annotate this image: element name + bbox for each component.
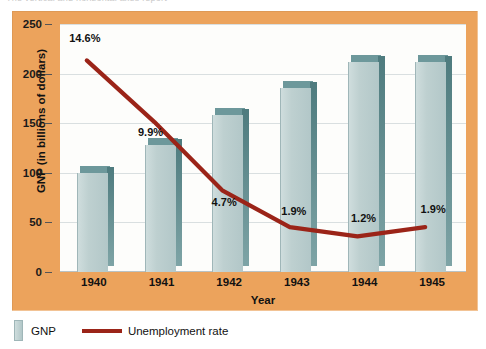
chart-legend: GNP Unemployment rate: [14, 320, 228, 341]
unemployment-value-label: 1.9%: [281, 205, 306, 217]
plot-area: 14.6%9.9%4.7%1.9%1.2%1.9%: [60, 24, 466, 272]
unemployment-value-label: 14.6%: [69, 32, 100, 44]
cut-off-caption-text: The vertical and horizontal axes report: [6, 0, 167, 3]
y-axis-tick-labels: 050100150200250: [12, 24, 52, 272]
y-axis-tick-mark: [45, 222, 52, 223]
x-axis-tick-label: 1940: [81, 276, 107, 288]
x-axis-tick-label: 1941: [149, 276, 175, 288]
unemployment-value-label: 1.9%: [421, 203, 446, 215]
chart-panel: GNP (in billions of dollars) 05010015020…: [12, 11, 478, 311]
legend-unemployment-line: [82, 329, 122, 333]
x-axis-tick-label: 1943: [284, 276, 310, 288]
y-axis-tick-label: 200: [23, 68, 42, 80]
x-axis-tick-labels: 194019411942194319441945: [60, 276, 466, 292]
x-axis-tick-label: 1945: [419, 276, 445, 288]
x-axis-title: Year: [60, 294, 466, 306]
y-axis-tick-label: 100: [23, 167, 42, 179]
y-axis-tick-label: 250: [23, 18, 42, 30]
line-path: [87, 60, 425, 236]
unemployment-value-label: 9.9%: [138, 126, 163, 138]
cut-off-caption-strip: The vertical and horizontal axes report: [0, 0, 486, 9]
x-axis-tick-label: 1942: [216, 276, 242, 288]
x-axis-tick-label: 1944: [352, 276, 378, 288]
y-axis-tick-label: 150: [23, 117, 42, 129]
y-axis-tick-mark: [45, 24, 52, 25]
legend-unemployment-label: Unemployment rate: [128, 325, 228, 337]
y-axis-tick-mark: [45, 272, 52, 273]
y-axis-tick-mark: [45, 74, 52, 75]
y-axis-tick-label: 0: [36, 266, 42, 278]
unemployment-value-label: 1.2%: [351, 212, 376, 224]
unemployment-rate-line: [60, 24, 466, 272]
y-axis-tick-label: 50: [29, 216, 42, 228]
legend-gnp-swatch: [14, 320, 23, 341]
legend-gnp-label: GNP: [31, 325, 56, 337]
unemployment-value-label: 4.7%: [212, 196, 237, 208]
y-axis-tick-mark: [45, 173, 52, 174]
y-axis-tick-mark: [45, 123, 52, 124]
